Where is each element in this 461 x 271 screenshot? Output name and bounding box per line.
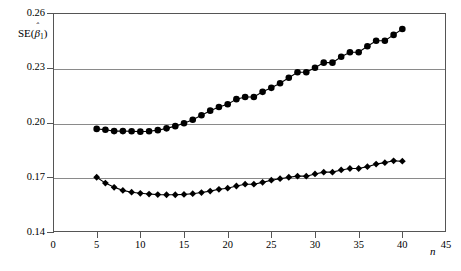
y-tick-label-wrap-2: 0.20 [0, 117, 45, 128]
y-axis-title-prefix: SE( [18, 27, 35, 39]
y-tick-label-0: 0.14 [1, 227, 45, 238]
x-tick-7 [359, 232, 360, 238]
x-tick-label-7: 35 [347, 239, 371, 250]
y-tick-1 [47, 177, 54, 178]
x-tick-8 [402, 232, 403, 238]
y-tick-label-3: 0.23 [1, 62, 45, 73]
x-tick-label-0: 0 [41, 239, 65, 250]
beta-hat-mark: ˆ [36, 22, 39, 31]
y-tick-label-wrap-4: 0.26 [0, 8, 45, 19]
y-axis-title-sub: 1 [40, 32, 44, 41]
y-tick-label-4: 0.26 [1, 8, 45, 19]
x-tick-6 [315, 232, 316, 238]
x-tick-label-5: 25 [259, 239, 283, 250]
x-tick-2 [140, 232, 141, 238]
x-tick-3 [184, 232, 185, 238]
x-tick-1 [97, 232, 98, 238]
y-tick-3 [47, 68, 54, 69]
x-tick-4 [228, 232, 229, 238]
gridline-y-0 [54, 69, 445, 70]
y-tick-4 [47, 13, 54, 14]
x-tick-5 [271, 232, 272, 238]
y-tick-2 [47, 123, 54, 124]
x-tick-label-3: 15 [172, 239, 196, 250]
y-tick-label-1: 0.17 [1, 172, 45, 183]
x-tick-label-1: 5 [85, 239, 109, 250]
x-tick-label-4: 20 [216, 239, 240, 250]
y-tick-label-wrap-1: 0.17 [0, 172, 45, 183]
x-tick-label-9: 45 [434, 239, 458, 250]
y-tick-label-2: 0.20 [1, 117, 45, 128]
y-axis-title-suffix: ) [44, 27, 48, 39]
y-tick-label-wrap-0: 0.14 [0, 227, 45, 238]
gridline-y-2 [54, 178, 445, 179]
x-tick-label-2: 10 [128, 239, 152, 250]
gridline-y-1 [54, 124, 445, 125]
plot-area [53, 13, 446, 232]
x-tick-label-8: 40 [390, 239, 414, 250]
y-axis-title: SE(ˆβ1) [18, 27, 47, 41]
y-tick-0 [47, 232, 54, 233]
chart-figure: SE(ˆβ1) n 0.140.170.200.230.26 051015202… [0, 0, 461, 271]
x-tick-label-6: 30 [303, 239, 327, 250]
y-tick-label-wrap-3: 0.23 [0, 62, 45, 73]
